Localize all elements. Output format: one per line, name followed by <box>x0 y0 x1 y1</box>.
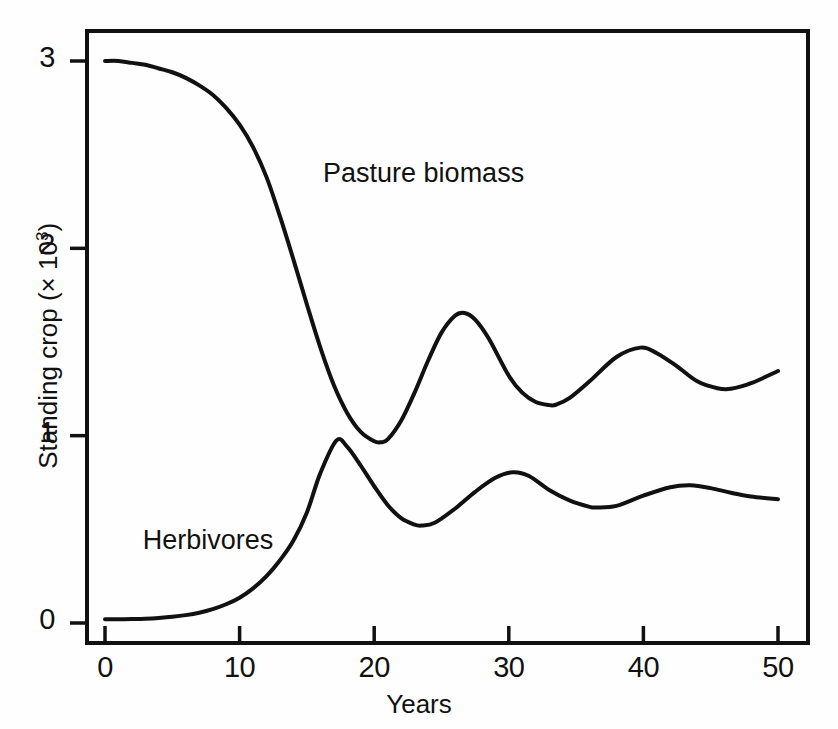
x-tick-label: 50 <box>748 651 808 684</box>
plot-canvas <box>0 0 838 729</box>
y-axis-ticks <box>70 61 87 623</box>
x-axis-title: Years <box>0 689 838 720</box>
x-axis-ticks <box>105 626 778 643</box>
y-tick-label: 1 <box>15 416 55 449</box>
series-label-pasture-biomass: Pasture biomass <box>323 158 524 189</box>
chart-figure: Standing crop (× 103) Years Pasture biom… <box>0 0 838 729</box>
y-tick-label: 3 <box>15 41 55 74</box>
x-tick-label: 10 <box>210 651 270 684</box>
x-tick-label: 20 <box>344 651 404 684</box>
series-line-pasture-biomass <box>105 61 778 443</box>
y-tick-label: 0 <box>15 603 55 636</box>
series-label-herbivores: Herbivores <box>143 525 274 556</box>
x-tick-label: 0 <box>75 651 135 684</box>
x-tick-label: 30 <box>479 651 539 684</box>
y-tick-label: 2 <box>15 228 55 261</box>
x-tick-label: 40 <box>613 651 673 684</box>
